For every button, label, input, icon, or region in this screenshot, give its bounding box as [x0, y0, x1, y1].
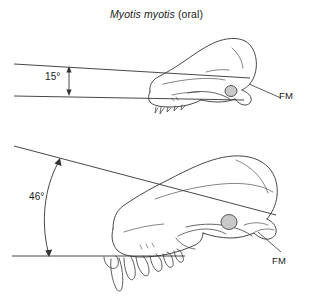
top-angle-arrow	[66, 66, 71, 96]
bottom-fm-leader-line	[258, 232, 281, 252]
bottom-upper-reference-line	[14, 146, 276, 215]
skull-angle-figure: Myotis myotis (oral)	[0, 0, 313, 301]
bottom-fm-label: FM	[272, 255, 286, 266]
bottom-panel-group	[12, 146, 281, 291]
bottom-angle-arc	[44, 158, 61, 257]
bottom-angle-label: 46°	[29, 191, 44, 202]
top-fm-leader-line	[249, 84, 281, 98]
figure-artwork	[0, 0, 313, 301]
top-angle-label: 15°	[45, 71, 60, 82]
top-fm-label: FM	[279, 90, 293, 101]
bottom-auditory-bulla	[221, 215, 237, 230]
top-auditory-bulla	[225, 86, 237, 97]
top-lower-reference-line	[14, 96, 244, 100]
top-skull-drawing	[149, 38, 257, 114]
